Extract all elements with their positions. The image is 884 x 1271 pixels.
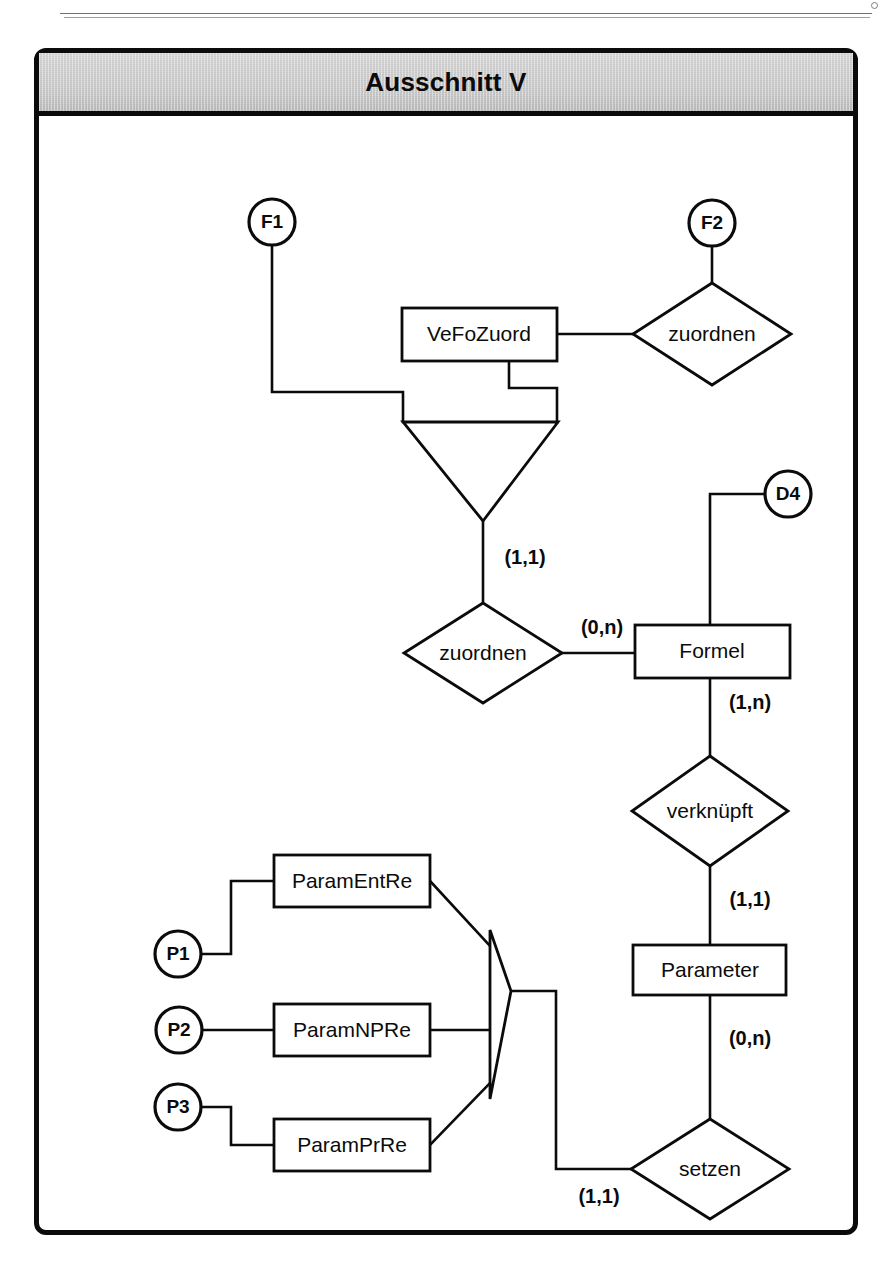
connector-d4: D4	[765, 471, 811, 517]
page-header-rule-secondary	[64, 17, 870, 18]
cardinality-generalization-zuordnen: (1,1)	[504, 546, 545, 568]
entity-formel: Formel	[635, 625, 790, 678]
entity-parameter: Parameter	[633, 945, 786, 995]
diagram-canvas: F1 F2 D4 VeFoZuord	[39, 116, 853, 1230]
connector-d4-label: D4	[776, 483, 801, 504]
page-header-rule	[60, 13, 872, 14]
relationship-setzen-label: setzen	[679, 1157, 741, 1180]
entity-paramprre: ParamPrRe	[274, 1119, 430, 1171]
cardinality-setzen-generalization: (1,1)	[578, 1185, 619, 1207]
generalization-top	[403, 422, 558, 521]
entity-paramentre-label: ParamEntRe	[292, 869, 412, 892]
connector-f1-label: F1	[261, 211, 284, 232]
edge-p3-to-paramprre	[201, 1107, 274, 1145]
figure-frame: Ausschnitt V	[34, 48, 858, 1235]
connector-p1-label: P1	[166, 943, 190, 964]
entity-paramprre-label: ParamPrRe	[297, 1133, 407, 1156]
connector-p3-label: P3	[166, 1096, 189, 1117]
page-corner-mark	[871, 2, 878, 9]
connector-p3: P3	[155, 1084, 201, 1130]
cardinality-parameter-setzen: (0,n)	[729, 1027, 771, 1049]
generalization-bottom	[490, 930, 511, 1099]
figure-title-bar: Ausschnitt V	[39, 53, 853, 116]
relationship-zuordnen-top-label: zuordnen	[668, 322, 756, 345]
connector-p2-label: P2	[167, 1019, 190, 1040]
edge-f1-to-generalization	[272, 245, 403, 422]
connector-f1: F1	[249, 199, 295, 245]
edge-setzen-to-generalization	[511, 991, 631, 1169]
scanned-page: Ausschnitt V	[0, 0, 884, 1271]
entity-paramentre: ParamEntRe	[274, 855, 430, 907]
entity-paramnpre-label: ParamNPRe	[293, 1018, 411, 1041]
edge-paramprre-to-generalization	[430, 1083, 490, 1145]
entity-formel-label: Formel	[679, 639, 744, 662]
relationship-verknuepft: verknüpft	[632, 756, 788, 866]
relationship-verknuepft-label: verknüpft	[667, 799, 754, 822]
connector-p1: P1	[155, 931, 201, 977]
relationship-zuordnen-mid: zuordnen	[404, 603, 562, 703]
relationship-zuordnen-mid-label: zuordnen	[439, 641, 527, 664]
cardinality-verknuepft-parameter: (1,1)	[729, 888, 770, 910]
connector-f2: F2	[689, 200, 735, 246]
connector-p2: P2	[156, 1007, 202, 1053]
entity-parameter-label: Parameter	[661, 958, 759, 981]
cardinality-zuordnen-formel: (0,n)	[581, 616, 623, 638]
figure-title: Ausschnitt V	[365, 67, 526, 98]
entity-vefozuord: VeFoZuord	[402, 308, 557, 361]
edge-d4-to-formel	[710, 494, 765, 625]
relationship-setzen: setzen	[631, 1119, 789, 1219]
er-diagram-svg: F1 F2 D4 VeFoZuord	[39, 116, 853, 1230]
cardinality-formel-verknuepft: (1,n)	[729, 691, 771, 713]
edge-paramentre-to-generalization	[430, 881, 490, 946]
edge-vefozuord-to-generalization	[509, 362, 557, 422]
entity-paramnpre: ParamNPRe	[274, 1004, 430, 1056]
edge-p1-to-paramentre	[201, 881, 274, 954]
entity-vefozuord-label: VeFoZuord	[427, 322, 531, 345]
relationship-zuordnen-top: zuordnen	[633, 283, 791, 385]
connector-f2-label: F2	[701, 212, 723, 233]
